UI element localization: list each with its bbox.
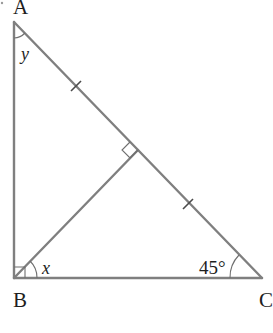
triangle-diagram: A B C y x 45° bbox=[0, 0, 273, 333]
right-angle-mark-d bbox=[122, 142, 138, 158]
angle-arc-c bbox=[230, 255, 239, 278]
vertex-label-b: B bbox=[13, 288, 27, 312]
angle-label-x: x bbox=[41, 258, 50, 278]
vertex-label-c: C bbox=[259, 288, 273, 312]
angle-arc-b bbox=[30, 261, 37, 278]
altitude-bd bbox=[14, 150, 138, 278]
angle-arc-a bbox=[14, 33, 25, 38]
vertex-label-a: A bbox=[13, 0, 29, 19]
angle-label-y: y bbox=[19, 44, 29, 64]
angle-label-45: 45° bbox=[199, 257, 226, 278]
corner-dot bbox=[1, 2, 3, 4]
